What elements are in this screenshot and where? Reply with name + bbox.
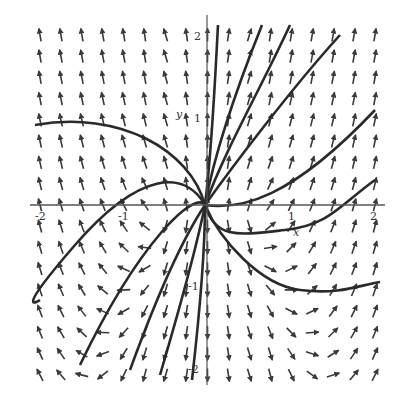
field-arrow <box>186 177 188 190</box>
field-arrow <box>331 220 336 232</box>
field-arrow <box>60 92 63 105</box>
field-arrow <box>164 50 168 62</box>
field-arrow <box>164 29 168 41</box>
field-arrow <box>268 178 273 190</box>
field-arrow <box>247 348 251 360</box>
field-arrow <box>311 92 314 105</box>
field-arrow <box>100 220 106 232</box>
field-arrow <box>143 156 147 168</box>
field-arrow <box>37 369 43 381</box>
field-arrow <box>37 348 42 360</box>
field-arrow <box>77 328 86 337</box>
field-arrow <box>227 369 229 382</box>
field-arrow <box>373 263 377 275</box>
field-arrow <box>227 156 229 169</box>
field-arrow <box>98 286 108 294</box>
field-arrow <box>268 326 273 338</box>
x-tick-2: 2 <box>370 210 377 223</box>
field-arrow <box>265 266 277 272</box>
field-arrow <box>142 305 148 317</box>
field-arrow <box>374 50 376 63</box>
field-arrow <box>353 114 356 127</box>
field-arrow <box>98 371 108 379</box>
field-arrow <box>186 326 188 339</box>
field-arrow <box>39 92 41 105</box>
field-arrow <box>99 242 106 253</box>
field-arrow <box>264 246 277 248</box>
field-arrow <box>122 114 125 127</box>
field-arrow <box>186 220 188 233</box>
field-arrow <box>247 284 251 296</box>
field-arrow <box>265 222 275 230</box>
field-arrow <box>186 347 188 360</box>
field-arrow <box>332 71 335 84</box>
field-arrow <box>374 29 376 42</box>
field-arrow <box>38 241 42 253</box>
field-arrow <box>351 305 357 317</box>
field-arrow <box>186 241 188 254</box>
field-arrow <box>101 135 104 148</box>
field-arrow <box>164 305 168 317</box>
field-arrow <box>269 92 272 105</box>
field-arrow <box>164 156 168 168</box>
field-arrow <box>81 29 83 42</box>
field-arrow <box>288 369 294 381</box>
field-arrow <box>372 348 377 360</box>
field-arrow <box>121 178 126 190</box>
field-arrow <box>247 241 251 253</box>
field-arrow <box>101 178 105 190</box>
y-tick-neg2: -2 <box>188 363 199 376</box>
field-arrow <box>287 243 296 252</box>
field-arrow <box>186 50 188 63</box>
field-arrow <box>311 114 314 127</box>
field-arrow <box>353 92 356 105</box>
field-arrow <box>373 305 377 317</box>
field-arrow <box>247 178 251 190</box>
field-arrow <box>38 263 42 275</box>
field-arrow <box>186 305 188 318</box>
field-arrow <box>57 370 66 380</box>
field-arrow <box>331 156 334 169</box>
field-arrow <box>290 114 293 127</box>
field-arrow <box>143 92 146 105</box>
field-arrow <box>350 348 357 359</box>
field-arrow <box>288 348 295 359</box>
field-arrow <box>59 241 63 253</box>
field-arrow <box>39 156 42 169</box>
field-arrow <box>227 50 229 63</box>
field-arrow <box>122 156 126 168</box>
field-arrow <box>290 50 292 63</box>
field-arrow <box>164 369 168 381</box>
x-tick-neg1: -1 <box>118 210 129 223</box>
field-arrow <box>78 284 85 295</box>
field-arrow <box>80 135 83 148</box>
field-arrow <box>59 177 62 190</box>
field-arrow <box>247 326 251 338</box>
field-arrow <box>38 305 43 317</box>
field-arrow <box>227 305 229 318</box>
field-arrow <box>140 222 150 230</box>
field-arrow <box>306 332 319 333</box>
field-arrow <box>331 178 335 190</box>
field-arrow <box>80 220 85 232</box>
field-arrow <box>289 135 293 148</box>
field-arrow <box>267 306 273 317</box>
field-arrow <box>269 71 271 84</box>
field-arrow <box>373 241 377 253</box>
field-arrow <box>39 29 41 42</box>
field-arrow <box>123 29 125 42</box>
field-arrow <box>373 284 377 296</box>
field-arrow <box>227 326 229 339</box>
field-arrow <box>102 71 105 84</box>
field-arrow <box>309 242 316 253</box>
field-arrow <box>164 326 168 338</box>
field-arrow <box>101 156 105 168</box>
field-arrow <box>102 29 104 42</box>
field-arrow <box>285 308 297 314</box>
field-arrow <box>332 135 335 148</box>
field-arrow <box>353 156 356 169</box>
field-arrow <box>60 114 63 127</box>
field-arrow <box>307 371 318 379</box>
field-arrow <box>331 242 336 254</box>
field-arrow <box>39 135 42 148</box>
